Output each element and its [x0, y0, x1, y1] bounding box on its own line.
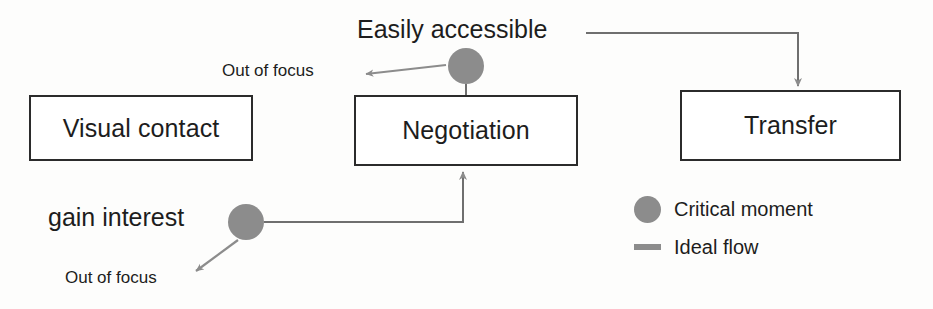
process-box-transfer[interactable]: Transfer: [680, 90, 901, 161]
process-box-label: Visual contact: [63, 114, 220, 143]
edge-gain-interest-out-of-focus: [196, 240, 238, 271]
legend-marker-ideal-flow: [630, 244, 668, 250]
legend-item-critical-moment: Critical moment: [630, 190, 920, 228]
legend-label-ideal-flow: Ideal flow: [668, 236, 759, 259]
process-box-visual-contact[interactable]: Visual contact: [29, 95, 253, 161]
legend-item-ideal-flow: Ideal flow: [630, 228, 920, 266]
dash-marker-icon: [634, 244, 661, 250]
edge-gain-interest-to-negotiation: [264, 172, 463, 222]
critical-moment-label-easily-accessible: Easily accessible: [357, 15, 547, 44]
annotation-out-of-focus-bottom: Out of focus: [65, 268, 157, 288]
edge-easily-accessible-to-transfer: [586, 33, 798, 86]
process-box-negotiation[interactable]: Negotiation: [354, 95, 578, 166]
process-box-label: Transfer: [744, 111, 837, 140]
diagram-canvas: Visual contact Negotiation Transfer Easi…: [0, 0, 933, 309]
circle-marker-icon: [634, 196, 661, 223]
critical-moment-dot-easily-accessible[interactable]: [448, 48, 484, 84]
legend-marker-critical-moment: [630, 196, 668, 223]
critical-moment-dot-gain-interest[interactable]: [228, 204, 264, 240]
legend-label-critical-moment: Critical moment: [668, 198, 813, 221]
critical-moment-label-gain-interest: gain interest: [48, 203, 184, 232]
edge-easily-accessible-out-of-focus: [366, 65, 446, 74]
process-box-label: Negotiation: [402, 116, 530, 145]
annotation-out-of-focus-top: Out of focus: [222, 61, 314, 81]
legend: Critical moment Ideal flow: [630, 190, 920, 266]
